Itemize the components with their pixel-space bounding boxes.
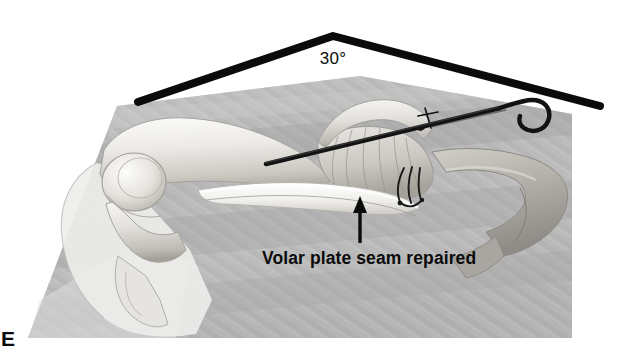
surgical-illustration: 30° Volar plate seam repaired E bbox=[0, 0, 624, 353]
suture-end-knot-right bbox=[420, 198, 424, 202]
suture-end-knot-left bbox=[398, 201, 403, 206]
figure-root: 30° Volar plate seam repaired E bbox=[0, 0, 624, 353]
callout-label: Volar plate seam repaired bbox=[262, 248, 476, 268]
angle-label: 30° bbox=[320, 49, 346, 68]
panel-letter: E bbox=[1, 327, 15, 350]
